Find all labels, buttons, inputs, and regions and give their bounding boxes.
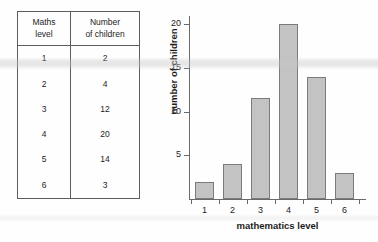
cell-maths-level: 3 xyxy=(18,97,71,122)
bar-level-1 xyxy=(195,182,214,200)
table-header-number-of-children: Number of children xyxy=(71,12,140,46)
bar-chart: 5101520 123456 mathematics level number … xyxy=(160,6,372,242)
x-axis-tick-label: 4 xyxy=(279,205,299,215)
y-axis-title: number of children xyxy=(168,17,179,127)
y-axis-tick: 5 xyxy=(184,155,190,156)
cell-number-of-children: 20 xyxy=(71,122,140,147)
x-axis-tick xyxy=(275,200,276,204)
header-maths-level-line2: level xyxy=(18,29,70,40)
cell-number-of-children: 4 xyxy=(71,72,140,97)
table-row: 2 4 xyxy=(18,72,140,97)
x-axis-tick-label: 6 xyxy=(335,205,355,215)
x-axis-tick xyxy=(191,200,192,204)
x-axis-title: mathematics level xyxy=(189,220,366,231)
bar-level-4 xyxy=(279,24,298,199)
x-axis-tick xyxy=(247,200,248,204)
y-axis-tick: 20 xyxy=(184,24,190,25)
x-axis-tick xyxy=(303,200,304,204)
bar-level-5 xyxy=(307,77,326,200)
cell-number-of-children: 2 xyxy=(71,46,140,72)
table-row: 1 2 xyxy=(18,46,140,72)
y-axis-tick-label: 5 xyxy=(176,149,181,159)
x-axis-tick-label: 5 xyxy=(307,205,327,215)
cell-maths-level: 1 xyxy=(18,46,71,72)
x-axis-tick xyxy=(359,200,360,204)
x-axis-tick-label: 2 xyxy=(223,205,243,215)
x-axis-tick xyxy=(331,200,332,204)
table-row: 3 12 xyxy=(18,97,140,122)
worksheet-figure: Maths level Number of children 1 2 2 4 xyxy=(0,0,378,242)
cell-number-of-children: 3 xyxy=(71,173,140,199)
table-row: 5 14 xyxy=(18,147,140,172)
cell-maths-level: 5 xyxy=(18,147,71,172)
y-axis-tick: 15 xyxy=(184,68,190,69)
header-maths-level-line1: Maths xyxy=(18,17,70,28)
x-axis-tick-label: 1 xyxy=(195,205,215,215)
table-row: 4 20 xyxy=(18,122,140,147)
bar-level-6 xyxy=(335,173,354,199)
frequency-table: Maths level Number of children 1 2 2 4 xyxy=(17,11,140,199)
table-row: 6 3 xyxy=(18,173,140,199)
bar-level-3 xyxy=(251,98,270,199)
x-axis-tick-label: 3 xyxy=(251,205,271,215)
cell-number-of-children: 14 xyxy=(71,147,140,172)
table-header-row: Maths level Number of children xyxy=(18,12,140,46)
header-number-children-line1: Number xyxy=(71,17,139,28)
y-axis-tick: 10 xyxy=(184,112,190,113)
frequency-table-container: Maths level Number of children 1 2 2 4 xyxy=(17,11,138,199)
cell-number-of-children: 12 xyxy=(71,97,140,122)
cell-maths-level: 4 xyxy=(18,122,71,147)
cell-maths-level: 6 xyxy=(18,173,71,199)
bar-level-2 xyxy=(223,164,242,199)
header-number-children-line2: of children xyxy=(71,29,139,40)
x-axis-tick xyxy=(219,200,220,204)
y-axis-line xyxy=(189,16,190,200)
cell-maths-level: 2 xyxy=(18,72,71,97)
table-header-maths-level: Maths level xyxy=(18,12,71,46)
x-axis-line xyxy=(189,199,366,200)
